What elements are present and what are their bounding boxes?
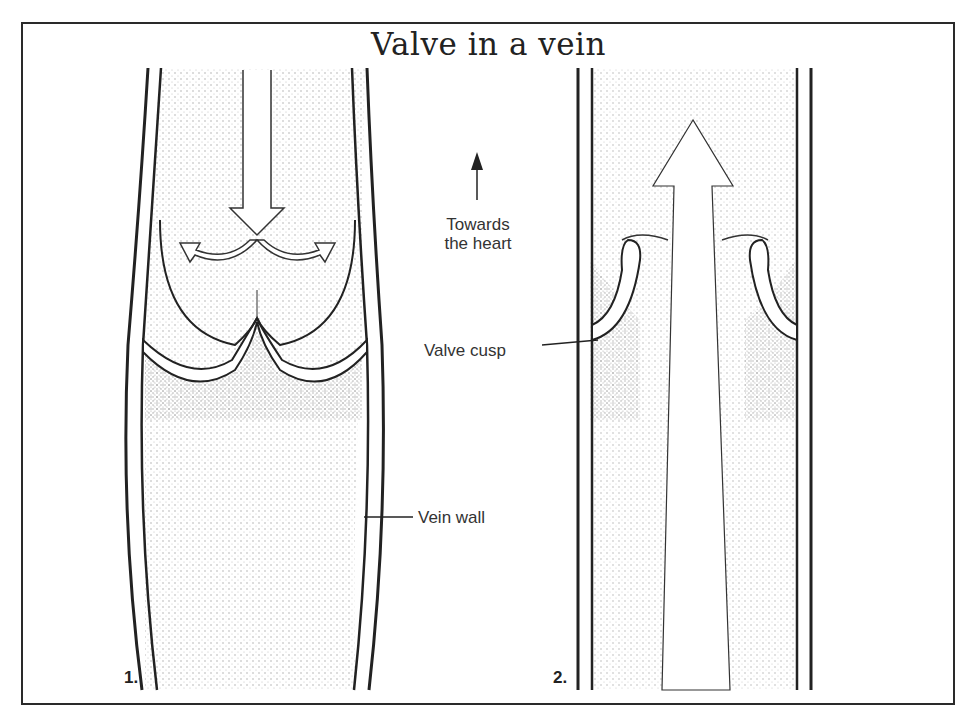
- figure-title: Valve in a vein: [0, 26, 977, 62]
- towards-heart-arrow-icon: [471, 152, 483, 200]
- direction-label: Towards the heart: [431, 215, 525, 253]
- valve-cusp-leader: [542, 340, 598, 345]
- panel-1-closed-valve: [126, 68, 384, 690]
- panel-2-number: 2.: [553, 668, 567, 688]
- valve-cusp-label: Valve cusp: [424, 341, 506, 360]
- vein-illustration: [0, 0, 977, 727]
- panel-2-open-valve: [578, 68, 811, 690]
- direction-label-line1: Towards: [431, 215, 525, 234]
- direction-label-line2: the heart: [431, 234, 525, 253]
- vein-wall-label: Vein wall: [418, 508, 485, 527]
- panel-1-number: 1.: [124, 668, 138, 688]
